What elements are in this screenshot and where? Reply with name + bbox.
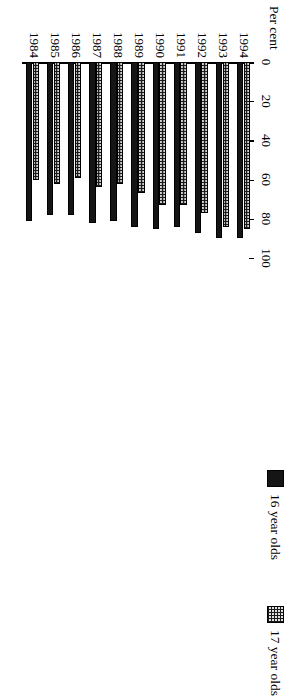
- bar: [75, 62, 81, 178]
- x-axis-label: 1989: [131, 28, 147, 58]
- x-axis-label: 1992: [194, 28, 210, 58]
- bar: [117, 62, 123, 184]
- bar: [96, 62, 102, 187]
- bar: [138, 62, 144, 193]
- y-tick-label: 20: [258, 95, 274, 108]
- bar: [131, 62, 137, 227]
- bar-group: 1985: [43, 62, 64, 258]
- bar: [68, 62, 74, 215]
- y-tick-label: 80: [258, 212, 274, 225]
- bar-group: 1993: [212, 62, 233, 258]
- plot-area: 020406080100 198419851986198719881989199…: [22, 62, 254, 258]
- legend-item-17-year-olds: 17 year olds: [267, 606, 284, 696]
- y-axis-title: Per cent: [266, 6, 282, 50]
- bar-group: 1992: [191, 62, 212, 258]
- bar: [159, 62, 165, 205]
- bar-group: 1984: [22, 62, 43, 258]
- bar-group: 1991: [170, 62, 191, 258]
- x-axis-label: 1987: [89, 28, 105, 58]
- y-tick-label: 0: [258, 59, 274, 66]
- legend-swatch-solid-icon: [267, 470, 284, 487]
- y-tick-mark: [249, 258, 254, 259]
- x-axis-label: 1984: [26, 28, 42, 58]
- x-axis-label: 1988: [110, 28, 126, 58]
- bar: [153, 62, 159, 229]
- x-axis-label: 1993: [215, 28, 231, 58]
- x-axis-label: 1986: [68, 28, 84, 58]
- x-axis-label: 1990: [152, 28, 168, 58]
- bar-group: 1988: [106, 62, 127, 258]
- bar-group: 1987: [85, 62, 106, 258]
- bar: [201, 62, 207, 213]
- x-axis-label: 1994: [236, 28, 252, 58]
- bar-group: 1994: [233, 62, 254, 258]
- x-axis-label: 1985: [47, 28, 63, 58]
- bar: [237, 62, 243, 238]
- bar: [195, 62, 201, 233]
- chart-legend: 16 year olds 17 year olds: [267, 470, 284, 696]
- bar-group: 1990: [149, 62, 170, 258]
- x-axis-label: 1991: [173, 28, 189, 58]
- bar: [180, 62, 186, 205]
- bar: [26, 62, 32, 221]
- bar: [110, 62, 116, 221]
- y-tick-label: 100: [258, 248, 274, 268]
- bar-groups: 1984198519861987198819891990199119921993…: [22, 62, 254, 258]
- bar: [47, 62, 53, 215]
- bar-group: 1986: [64, 62, 85, 258]
- bar-group: 1989: [127, 62, 148, 258]
- y-tick-label: 60: [258, 173, 274, 186]
- legend-swatch-dotted-icon: [267, 606, 284, 623]
- legend-item-16-year-olds: 16 year olds: [267, 470, 284, 560]
- bar: [223, 62, 229, 227]
- bar: [89, 62, 95, 223]
- y-tick-label: 40: [258, 134, 274, 147]
- bar: [244, 62, 250, 229]
- legend-label-16-year-olds: 16 year olds: [268, 494, 284, 560]
- bar: [54, 62, 60, 184]
- legend-label-17-year-olds: 17 year olds: [268, 630, 284, 696]
- bar: [216, 62, 222, 238]
- bar: [33, 62, 39, 180]
- bar: [174, 62, 180, 227]
